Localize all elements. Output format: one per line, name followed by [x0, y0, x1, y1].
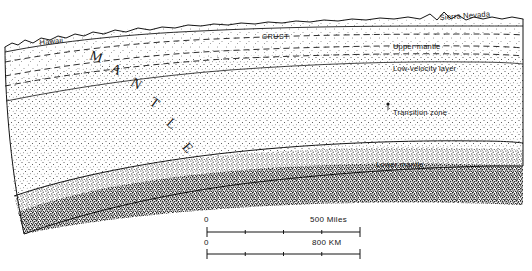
scale-miles-start-label: 0: [204, 215, 209, 224]
scale-bar-miles: [207, 227, 360, 237]
label-lower-mantle: Lower mantle: [376, 160, 423, 169]
scale-miles-end-label: 500 Miles: [310, 215, 347, 224]
figure-container: Hawaii Sierra Nevada CRUST Upper mantle …: [0, 0, 532, 271]
label-crust: CRUST: [262, 33, 289, 40]
scale-bar-kilometers: [207, 249, 360, 259]
scale-km-start-label: 0: [204, 238, 209, 247]
label-low-velocity-layer: Low-velocity layer: [393, 64, 456, 73]
label-transition-zone: Transition zone: [393, 108, 447, 117]
scale-km-end-label: 800 KM: [312, 238, 341, 247]
earth-cross-section-diagram: [0, 0, 532, 271]
label-upper-mantle: Upper mantle: [393, 42, 440, 51]
